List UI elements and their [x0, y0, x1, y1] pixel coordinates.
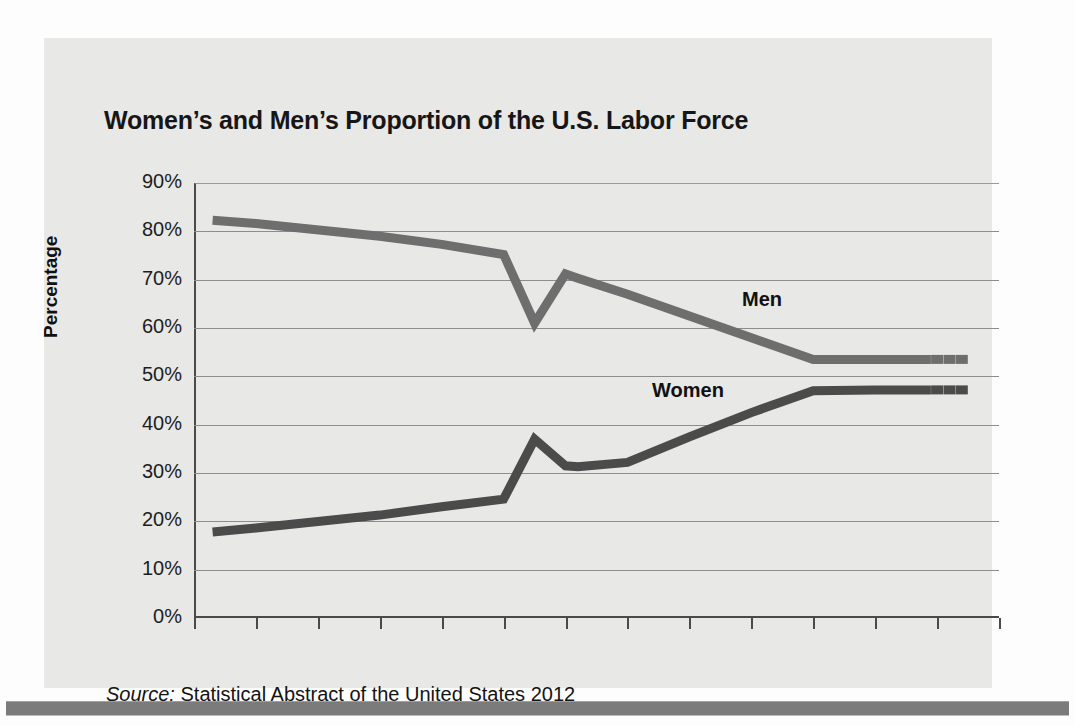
y-tick-label: 50%	[116, 363, 182, 386]
y-tick-label: 30%	[116, 460, 182, 483]
y-axis-tick-labels: 0%10%20%30%40%50%60%70%80%90%	[116, 183, 182, 618]
y-tick-label: 20%	[116, 508, 182, 531]
y-tick-label: 70%	[116, 267, 182, 290]
x-tick	[627, 618, 629, 629]
x-tick	[194, 618, 196, 629]
x-tick	[256, 618, 258, 629]
y-tick-label: 10%	[116, 557, 182, 580]
y-tick-label: 90%	[116, 170, 182, 193]
x-tick	[937, 618, 939, 629]
projected-dash-men	[956, 355, 968, 364]
series-label-men: Men	[742, 288, 782, 311]
projected-dash-women	[944, 385, 956, 394]
x-tick	[566, 618, 568, 629]
projected-dash-women	[931, 385, 943, 394]
page-title: Women’s and Men’s Proportion of the U.S.…	[104, 106, 748, 135]
x-tick	[813, 618, 815, 629]
y-tick-label: 60%	[116, 315, 182, 338]
x-tick	[442, 618, 444, 629]
x-tick	[875, 618, 877, 629]
y-axis-title: Percentage	[40, 236, 62, 338]
series-label-women: Women	[652, 379, 724, 402]
x-tick	[999, 618, 1001, 629]
projected-dash-men	[931, 355, 943, 364]
x-tick	[318, 618, 320, 629]
y-tick-label: 0%	[116, 605, 182, 628]
x-tick	[504, 618, 506, 629]
series-line-men	[213, 220, 931, 359]
bottom-rule	[6, 701, 1069, 716]
x-tick	[689, 618, 691, 629]
series-line-women	[213, 390, 931, 532]
x-tick	[751, 618, 753, 629]
y-tick-label: 80%	[116, 218, 182, 241]
series-lines	[194, 183, 999, 618]
page-background: Women’s and Men’s Proportion of the U.S.…	[0, 0, 1075, 726]
projected-dash-women	[956, 385, 968, 394]
plot-area: 1890190019101920193019401950196019701980…	[194, 183, 999, 618]
y-tick-label: 40%	[116, 412, 182, 435]
x-tick	[380, 618, 382, 629]
figure-card: Women’s and Men’s Proportion of the U.S.…	[44, 38, 992, 688]
projected-dash-men	[944, 355, 956, 364]
